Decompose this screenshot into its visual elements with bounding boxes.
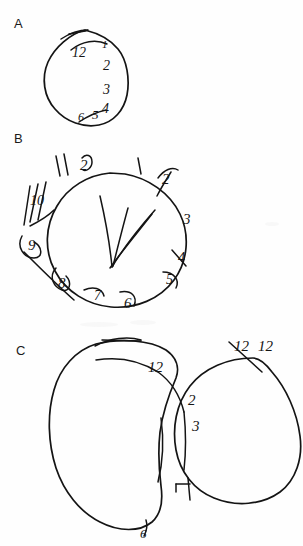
panel-a-numerals: 12 1 2 3 4 5 6: [72, 38, 110, 124]
numeral-1: 1: [102, 38, 108, 50]
numeral-12: 12: [72, 45, 86, 60]
panel-a-drawing: [44, 30, 128, 126]
numeral-3: 3: [102, 82, 110, 97]
numeral-6: 6: [140, 526, 147, 541]
panel-label-a: A: [14, 16, 23, 31]
numeral-6: 6: [78, 110, 84, 124]
numeral-5: 5: [92, 107, 99, 122]
numeral-12-a: 12: [234, 338, 250, 354]
paper-sheet: 12 1 2 3 4 5 6: [0, 0, 303, 546]
panel-b-numerals: 2 2 3 4 5 6 7 8 9: [20, 154, 191, 311]
panel-label-b: B: [14, 131, 23, 146]
numeral-9: 9: [28, 237, 36, 253]
numeral-12-left: 12: [148, 359, 164, 375]
panel-c-drawing: [49, 338, 300, 536]
numeral-4: 4: [102, 101, 109, 116]
numeral-2: 2: [188, 392, 196, 408]
panel-label-c: C: [16, 343, 26, 358]
numeral-2: 2: [103, 58, 110, 73]
clock-drawing-figure: 12 1 2 3 4 5 6: [0, 0, 303, 546]
numeral-3: 3: [182, 211, 191, 227]
numeral-6: 6: [124, 295, 132, 311]
numeral-12-b: 12: [258, 338, 274, 354]
numeral-3: 3: [191, 418, 200, 434]
